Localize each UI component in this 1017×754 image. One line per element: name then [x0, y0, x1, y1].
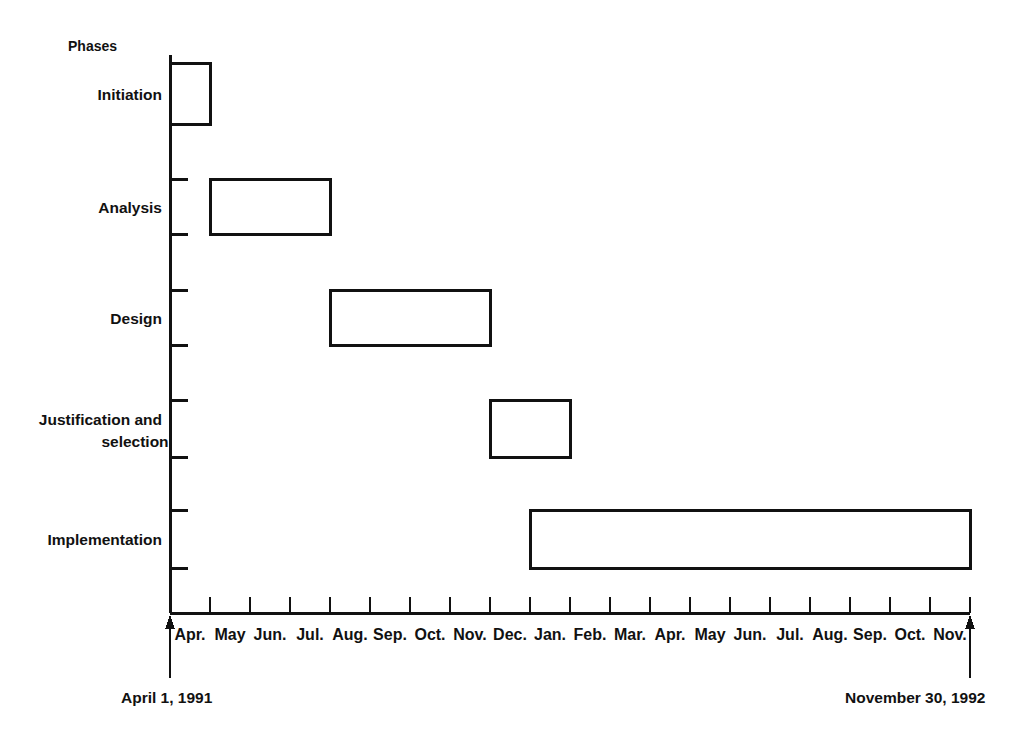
month-tick-label-8: Dec.	[493, 626, 527, 643]
gantt-chart-svg: Phases InitiationAnalysisDesignJustifica…	[0, 0, 1017, 754]
gantt-bar-justification-and-selection	[490, 400, 570, 457]
phase-label-analysis: Analysis	[98, 199, 162, 216]
month-tick-label-15: Jul.	[776, 626, 804, 643]
phase-label-initiation: Initiation	[97, 86, 162, 103]
gantt-bar-analysis	[210, 179, 330, 234]
month-tick-label-17: Sep.	[853, 626, 887, 643]
month-tick-label-5: Sep.	[373, 626, 407, 643]
phase-label-justification-and-selection: Justification and	[39, 411, 162, 428]
y-axis-ticks	[170, 63, 188, 568]
month-tick-label-10: Feb.	[574, 626, 607, 643]
month-tick-label-18: Oct.	[894, 626, 925, 643]
month-tick-label-6: Oct.	[414, 626, 445, 643]
month-tick-label-0: Apr.	[174, 626, 205, 643]
phase-label-implementation: Implementation	[47, 531, 162, 548]
phase-labels: InitiationAnalysisDesignJustification an…	[39, 86, 169, 549]
month-tick-label-9: Jan.	[534, 626, 566, 643]
month-tick-label-16: Aug.	[812, 626, 848, 643]
month-tick-label-7: Nov.	[453, 626, 486, 643]
gantt-bar-implementation	[530, 510, 970, 568]
month-tick-label-12: Apr.	[654, 626, 685, 643]
month-tick-label-19: Nov.	[933, 626, 966, 643]
gantt-bar-initiation	[170, 63, 210, 124]
gantt-bars	[170, 63, 970, 568]
axis-endpoint-start	[165, 615, 175, 678]
arrow-head-start	[165, 615, 175, 629]
month-tick-label-1: May	[214, 626, 245, 643]
month-tick-label-3: Jul.	[296, 626, 324, 643]
phase-label-design: Design	[110, 310, 162, 327]
month-tick-label-13: May	[694, 626, 725, 643]
axis-endpoint-end	[965, 615, 975, 678]
phase-label-justification-and-selection-line2: selection	[101, 433, 168, 450]
gantt-chart-figure: Phases InitiationAnalysisDesignJustifica…	[0, 0, 1017, 754]
x-axis-ticks	[170, 597, 970, 613]
start-date-caption: April 1, 1991	[121, 689, 213, 706]
axis-endpoint-markers	[165, 615, 975, 678]
month-tick-label-2: Jun.	[254, 626, 287, 643]
phases-heading-group: Phases	[68, 38, 117, 54]
end-date-caption: November 30, 1992	[845, 689, 985, 706]
month-tick-label-14: Jun.	[734, 626, 767, 643]
month-tick-label-4: Aug.	[332, 626, 368, 643]
gantt-bar-design	[330, 290, 490, 345]
month-labels: Apr.MayJun.Jul.Aug.Sep.Oct.Nov.Dec.Jan.F…	[174, 626, 966, 643]
arrow-head-end	[965, 615, 975, 629]
month-tick-label-11: Mar.	[614, 626, 646, 643]
phases-heading: Phases	[68, 38, 117, 54]
